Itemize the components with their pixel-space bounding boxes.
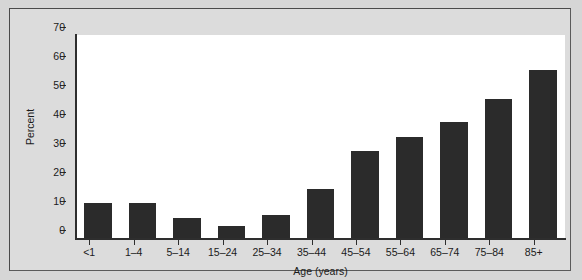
y-axis-tick-label: 50 <box>25 80 65 90</box>
bar-slot <box>218 35 246 238</box>
x-axis-tick-label: <1 <box>67 247 111 258</box>
x-axis-tick <box>134 240 135 245</box>
x-axis-tick-label: 25–34 <box>245 247 289 258</box>
bar[interactable] <box>396 137 424 239</box>
x-axis-tick <box>534 240 535 245</box>
bar[interactable] <box>129 203 157 238</box>
x-axis-tick-label: 55–64 <box>378 247 422 258</box>
y-axis-tick-label: 0 <box>25 225 65 235</box>
x-axis-tick-label: 15–24 <box>200 247 244 258</box>
bar[interactable] <box>262 215 290 238</box>
x-axis-tick-label: 5–14 <box>156 247 200 258</box>
x-axis-tick-label: 45–54 <box>334 247 378 258</box>
bar-slot <box>262 35 290 238</box>
bar[interactable] <box>307 189 335 238</box>
bar[interactable] <box>440 122 468 238</box>
bar[interactable] <box>173 218 201 238</box>
y-axis-tick-label: 60 <box>25 51 65 61</box>
x-axis-tick <box>267 240 268 245</box>
bar-slot <box>529 35 557 238</box>
x-axis-tick-label: 1–4 <box>111 247 155 258</box>
x-axis-tick <box>445 240 446 245</box>
x-axis-tick-label: 85+ <box>512 247 556 258</box>
y-axis-title: Percent <box>24 97 36 157</box>
x-axis-tick <box>356 240 357 245</box>
bar-slot <box>396 35 424 238</box>
x-axis-tick-label: 35–44 <box>289 247 333 258</box>
bar[interactable] <box>351 151 379 238</box>
y-axis-tick-label: 20 <box>25 167 65 177</box>
x-axis-tick <box>400 240 401 245</box>
x-axis-tick <box>89 240 90 245</box>
bar-slot <box>351 35 379 238</box>
x-axis-tick-label: 65–74 <box>423 247 467 258</box>
bar-slot <box>173 35 201 238</box>
bar-slot <box>485 35 513 238</box>
figure-frame: 010203040506070 Percent <11–45–1415–2425… <box>9 8 571 271</box>
bar[interactable] <box>485 99 513 238</box>
figure-canvas: 010203040506070 Percent <11–45–1415–2425… <box>0 0 582 280</box>
y-axis-tick-label: 70 <box>25 22 65 32</box>
x-axis-line <box>75 238 566 240</box>
y-axis-tick-label: 10 <box>25 196 65 206</box>
bar-slot <box>129 35 157 238</box>
x-axis-tick <box>223 240 224 245</box>
bar[interactable] <box>529 70 557 238</box>
x-axis-title: Age (years) <box>76 265 565 277</box>
x-axis-tick <box>312 240 313 245</box>
x-axis-tick <box>489 240 490 245</box>
x-axis-tick-label: 75–84 <box>467 247 511 258</box>
bar-slot <box>84 35 112 238</box>
bar[interactable] <box>84 203 112 238</box>
bar-slot <box>307 35 335 238</box>
bar[interactable] <box>218 226 246 238</box>
bar-slot <box>440 35 468 238</box>
bar-series <box>76 35 565 238</box>
x-axis-tick <box>178 240 179 245</box>
